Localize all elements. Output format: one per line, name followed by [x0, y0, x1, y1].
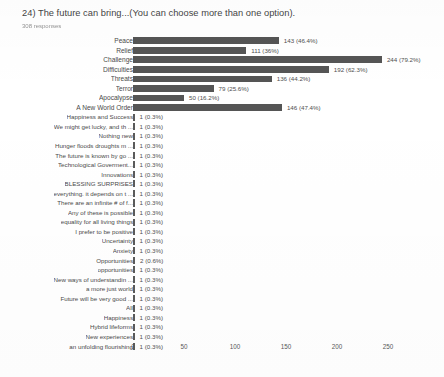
bar [133, 104, 282, 111]
bar-value-label: 1 (0.3%) [135, 141, 163, 151]
bar-category-label: equality for all living things [61, 217, 133, 227]
bar-category-label: Hunger floods droughts m ... [55, 141, 133, 151]
bar-value-label: 1 (0.3%) [135, 236, 163, 246]
bar-value-label: 1 (0.3%) [135, 284, 163, 294]
chart-row: A New World Order146 (47.4%) [0, 103, 444, 113]
chart-row: a more just world1 (0.3%) [0, 284, 444, 294]
bar-category-label: Difficulties [103, 65, 133, 75]
question-header: 24) The future can bring...(You can choo… [22, 8, 432, 30]
bar-value-label: 1 (0.3%) [135, 208, 163, 218]
bar-category-label: New ways of understandin ... [54, 275, 133, 285]
x-axis-tick: 150 [281, 343, 292, 350]
chart-row: The future is known by go ...1 (0.3%) [0, 151, 444, 161]
bar-value-label: 1 (0.3%) [135, 122, 163, 132]
chart-row: BLESSING SURPRISES1 (0.3%) [0, 179, 444, 189]
bar-value-label: 1 (0.3%) [135, 294, 163, 304]
chart-row: Difficulties192 (62.3%) [0, 65, 444, 75]
bar [133, 56, 382, 63]
chart-row: Peace143 (46.4%) [0, 36, 444, 46]
bar-value-label: 1 (0.3%) [135, 265, 163, 275]
chart-row: New experiences1 (0.3%) [0, 332, 444, 342]
bar-value-label: 1 (0.3%) [135, 332, 163, 342]
chart-row: Happiness1 (0.3%) [0, 313, 444, 323]
chart-row: I prefer to be positive1 (0.3%) [0, 227, 444, 237]
bar-value-label: 244 (79.2%) [382, 55, 421, 65]
bar-value-label: 136 (44.2%) [272, 74, 311, 84]
bar-value-label: 1 (0.3%) [135, 322, 163, 332]
bar-category-label: Terror [116, 84, 133, 94]
bar-value-label: 1 (0.3%) [135, 303, 163, 313]
x-axis-tick: 0 [131, 343, 135, 350]
bar-chart: Peace143 (46.4%)Relief111 (36%)Challenge… [0, 36, 444, 341]
bar-category-label: a more just world [86, 284, 133, 294]
bar-value-label: 1 (0.3%) [135, 275, 163, 285]
bar-category-label: Nothing new [99, 131, 133, 141]
chart-row: Innovations1 (0.3%) [0, 170, 444, 180]
chart-row: Hunger floods droughts m ...1 (0.3%) [0, 141, 444, 151]
bar-value-label: 1 (0.3%) [135, 179, 163, 189]
bar-value-label: 1 (0.3%) [135, 189, 163, 199]
chart-row: Opportunities2 (0.6%) [0, 256, 444, 266]
bar-value-label: 1 (0.3%) [135, 246, 163, 256]
bar-value-label: 1 (0.3%) [135, 198, 163, 208]
page-title: 24) The future can bring...(You can choo… [22, 8, 432, 19]
bar-category-label: opportunities [98, 265, 133, 275]
chart-row: Technological Goverment...1 (0.3%) [0, 160, 444, 170]
chart-row: Challenge244 (79.2%) [0, 55, 444, 65]
bar-category-label: Happiness [104, 313, 133, 323]
bar-category-label: There are an infinite # of f... [57, 198, 133, 208]
bar-category-label: Relief [116, 46, 133, 56]
bar-category-label: Uncertainty [102, 236, 133, 246]
bar-value-label: 143 (46.4%) [279, 36, 318, 46]
chart-row: Anxiety1 (0.3%) [0, 246, 444, 256]
chart-row: Apocalypse50 (16.2%) [0, 93, 444, 103]
bar-value-label: 1 (0.3%) [135, 112, 163, 122]
bar-category-label: All [126, 303, 133, 313]
x-axis: 050100150200250 [0, 343, 444, 357]
bar-value-label: 1 (0.3%) [135, 170, 163, 180]
bar-category-label: Happiness and Success [67, 112, 133, 122]
bar-category-label: Challenge [103, 55, 133, 65]
bar-value-label: 1 (0.3%) [135, 313, 163, 323]
bar-value-label: 2 (0.6%) [135, 256, 163, 266]
x-axis-tick: 200 [332, 343, 343, 350]
bar-value-label: 1 (0.3%) [135, 227, 163, 237]
bar-category-label: Hybrid lifeforms [90, 322, 133, 332]
bar [133, 76, 272, 83]
chart-row: New ways of understandin ...1 (0.3%) [0, 275, 444, 285]
bar-category-label: A New World Order [76, 103, 133, 113]
chart-row: Any of these is possible1 (0.3%) [0, 208, 444, 218]
chart-row: everything. it depends on t ...1 (0.3%) [0, 189, 444, 199]
bar-category-label: I prefer to be positive [75, 227, 133, 237]
bar [133, 95, 184, 102]
bar-category-label: Future will be very good ... [60, 294, 133, 304]
bar-category-label: Peace [114, 36, 133, 46]
bar-category-label: Anxiety [113, 246, 133, 256]
chart-row: Terror79 (25.6%) [0, 84, 444, 94]
chart-row: Future will be very good ...1 (0.3%) [0, 294, 444, 304]
x-axis-tick: 50 [180, 343, 187, 350]
bar-value-label: 79 (25.6%) [214, 84, 249, 94]
bar-value-label: 1 (0.3%) [135, 160, 163, 170]
bar-category-label: We might get lucky, and th ... [54, 122, 133, 132]
bar [133, 47, 246, 54]
chart-row: Relief111 (36%) [0, 46, 444, 56]
bar-value-label: 1 (0.3%) [135, 131, 163, 141]
response-count-label: 308 responses [22, 22, 432, 30]
chart-row: Hybrid lifeforms1 (0.3%) [0, 322, 444, 332]
bar [133, 66, 329, 73]
chart-row: equality for all living things1 (0.3%) [0, 217, 444, 227]
chart-row: Nothing new1 (0.3%) [0, 131, 444, 141]
bar-category-label: Innovations [101, 170, 133, 180]
chart-row: There are an infinite # of f...1 (0.3%) [0, 198, 444, 208]
bar-value-label: 1 (0.3%) [135, 217, 163, 227]
bar [133, 37, 279, 44]
x-axis-tick: 250 [383, 343, 394, 350]
chart-row: Threats136 (44.2%) [0, 74, 444, 84]
bar-category-label: Any of these is possible [68, 208, 133, 218]
bar-category-label: Apocalypse [99, 93, 133, 103]
bar-value-label: 146 (47.4%) [282, 103, 321, 113]
bar-value-label: 192 (62.3%) [329, 65, 368, 75]
chart-row: Happiness and Success1 (0.3%) [0, 112, 444, 122]
bar-category-label: The future is known by go ... [55, 151, 133, 161]
